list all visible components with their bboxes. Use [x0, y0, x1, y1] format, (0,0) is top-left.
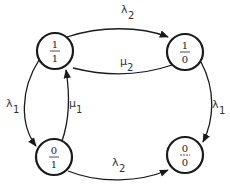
label-lambda1-left: λ 1: [6, 97, 19, 115]
state-diagram: 1 1 1 0 0 1 0 0 λ 2 μ 2 λ 1 μ 1 λ 1: [0, 0, 230, 185]
node-top: 1: [182, 40, 188, 51]
svg-text:μ: μ: [69, 97, 76, 110]
svg-text:λ: λ: [112, 156, 119, 169]
label-lambda1-right: λ 1: [212, 98, 225, 116]
state-node-0-0: 0 0: [167, 137, 203, 173]
svg-text:1: 1: [76, 104, 82, 115]
label-lambda2-bottom: λ 2: [112, 156, 125, 174]
state-node-1-1: 1 1: [37, 33, 73, 69]
label-mu2: μ 2: [120, 55, 133, 73]
edge-01-to-11: [62, 70, 69, 141]
label-mu1: μ 1: [69, 97, 82, 115]
node-bottom: 1: [52, 53, 58, 64]
state-node-0-1: 0 1: [36, 139, 72, 175]
svg-text:λ: λ: [121, 3, 128, 16]
svg-text:1: 1: [219, 105, 225, 116]
svg-text:2: 2: [119, 163, 125, 174]
label-lambda2-top: λ 2: [121, 3, 134, 21]
edge-11-to-10: [67, 29, 168, 37]
svg-text:λ: λ: [6, 97, 13, 110]
svg-text:λ: λ: [212, 98, 219, 111]
edge-01-to-00: [68, 170, 168, 180]
node-top: 1: [52, 39, 58, 50]
edge-10-to-00: [201, 62, 212, 142]
node-bottom: 0: [182, 54, 188, 65]
svg-text:μ: μ: [120, 55, 127, 68]
node-top: 0: [182, 143, 188, 154]
svg-text:2: 2: [127, 62, 133, 73]
edge-11-to-01: [24, 60, 39, 146]
svg-text:1: 1: [13, 104, 19, 115]
state-node-1-0: 1 0: [167, 34, 203, 70]
node-bottom: 1: [51, 159, 57, 170]
node-bottom: 0: [182, 157, 188, 168]
svg-text:2: 2: [128, 10, 134, 21]
node-top: 0: [51, 145, 57, 156]
